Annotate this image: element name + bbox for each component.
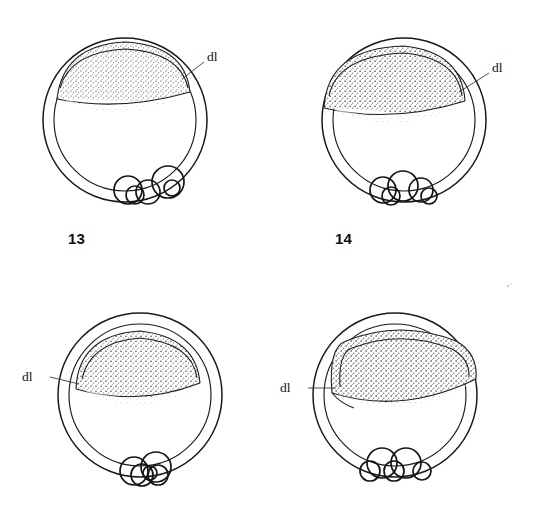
panel-15-drawing: dl [0,275,280,527]
panel-14-drawing: dl [279,0,541,240]
scan-speck-artifact [502,280,516,294]
dl-leader-line [50,377,79,384]
panel-13-caption: 13 [68,230,85,247]
panel-14: dl 14 [279,0,541,240]
panel-13: dl 13 [0,0,280,240]
dl-label-13: dl [207,49,218,64]
dl-label-14: dl [492,60,503,75]
panel-16: dl [270,275,541,527]
panel-16-drawing: dl [270,275,541,527]
dl-leader-line [459,73,489,92]
yolk-cell-cluster [370,171,437,205]
yolk-cell-cluster [360,448,431,481]
panel-15: dl [0,275,280,527]
dl-label-15: dl [22,369,33,384]
figure-plate: dl 13 [0,0,541,527]
yolk-cell-cluster [120,452,171,486]
panel-14-caption: 14 [335,230,352,247]
dl-label-16: dl [280,380,291,395]
panel-13-drawing: dl [0,0,280,240]
